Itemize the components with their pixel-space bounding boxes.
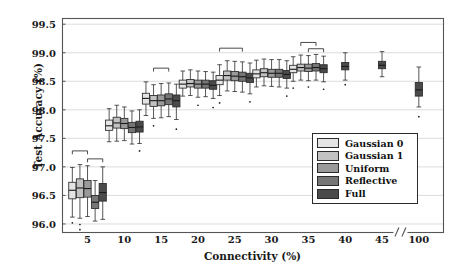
legend-item: Gaussian 1 bbox=[317, 150, 412, 163]
legend-label: Uniform bbox=[345, 164, 389, 174]
x-tick-label: 20 bbox=[178, 234, 218, 245]
x-tick-label: 15 bbox=[141, 234, 181, 245]
x-tick-label: 35 bbox=[288, 234, 328, 245]
y-tick-label: 97.0 bbox=[14, 161, 56, 172]
y-tick-label: 98.0 bbox=[14, 104, 56, 115]
legend-item: Uniform bbox=[317, 162, 412, 175]
y-tick-label: 97.5 bbox=[14, 133, 56, 144]
legend-swatch bbox=[317, 163, 339, 173]
x-tick-label: 45 bbox=[362, 234, 402, 245]
legend-item: Reflective bbox=[317, 175, 412, 188]
y-tick-label: 98.5 bbox=[14, 76, 56, 87]
legend-swatch bbox=[317, 189, 339, 199]
legend-label: Full bbox=[345, 189, 366, 199]
legend-label: Gaussian 0 bbox=[345, 139, 403, 149]
x-tick-label: 40 bbox=[325, 234, 365, 245]
legend-swatch bbox=[317, 151, 339, 161]
x-tick-label: 25 bbox=[215, 234, 255, 245]
y-tick-label: 99.0 bbox=[14, 47, 56, 58]
legend-label: Reflective bbox=[345, 176, 397, 186]
legend: Gaussian 0Gaussian 1UniformReflectiveFul… bbox=[312, 133, 418, 204]
y-tick-label: 96.5 bbox=[14, 190, 56, 201]
legend-swatch bbox=[317, 138, 339, 148]
chart-figure: Test Accuracy (%) Connectivity (%) 96.09… bbox=[0, 0, 455, 275]
x-tick-label: 30 bbox=[252, 234, 292, 245]
legend-item: Gaussian 0 bbox=[317, 137, 412, 150]
x-tick-label: 5 bbox=[68, 234, 108, 245]
x-axis-label: Connectivity (%) bbox=[62, 250, 443, 262]
legend-swatch bbox=[317, 176, 339, 186]
y-tick-label: 96.0 bbox=[14, 218, 56, 229]
x-tick-label: 100 bbox=[399, 234, 439, 245]
legend-item: Full bbox=[317, 187, 412, 200]
x-tick-label: 10 bbox=[104, 234, 144, 245]
y-tick-label: 99.5 bbox=[14, 19, 56, 30]
legend-label: Gaussian 1 bbox=[345, 151, 403, 161]
